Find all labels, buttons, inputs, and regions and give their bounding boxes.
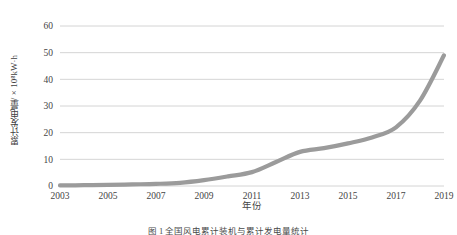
x-axis-tick-labels: 200320052007200920112013201520172019 [51,191,454,201]
x-tick-label: 2003 [51,191,70,201]
x-tick-label: 2017 [387,191,406,201]
y-tick-label: 30 [44,101,54,111]
figure-caption: 图 1 全国风电累计装机与累计发电量统计 [0,224,457,235]
x-tick-label: 2005 [99,191,118,201]
x-tick-label: 2015 [339,191,358,201]
gridlines-group [60,26,444,186]
line-chart: 0102030405060 20032005200720092011201320… [0,0,457,212]
y-tick-label: 60 [44,21,54,31]
y-tick-label: 40 [44,75,54,85]
x-tick-label: 2009 [195,191,214,201]
x-tick-label: 2013 [291,191,310,201]
data-series-line [60,55,444,185]
y-axis-tick-labels: 0102030405060 [44,21,54,191]
y-tick-label: 50 [44,48,54,58]
y-tick-label: 10 [44,155,54,165]
figure-container: 0102030405060 20032005200720092011201320… [0,0,457,235]
y-tick-label: 0 [48,181,53,191]
x-tick-label: 2019 [435,191,454,201]
x-axis-title: 年份 [242,200,262,211]
x-tick-label: 2011 [243,191,262,201]
chart-plot-area: 0102030405060 20032005200720092011201320… [0,0,457,212]
y-tick-label: 20 [44,128,54,138]
x-tick-label: 2007 [147,191,166,201]
